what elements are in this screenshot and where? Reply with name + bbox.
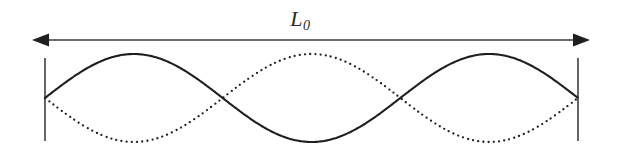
length-symbol: L: [290, 6, 302, 31]
arrow-head-left-icon: [32, 34, 49, 47]
end-bars-group: [45, 58, 578, 141]
solid-wave-curve: [45, 54, 578, 142]
length-subscript: 0: [302, 18, 310, 33]
wave-curves-group: [44, 53, 578, 143]
dimension-arrow-group: [32, 34, 590, 47]
arrow-head-right-icon: [573, 34, 590, 47]
standing-wave-figure: L0: [0, 0, 617, 150]
dotted-wave-curve: [44, 53, 577, 143]
length-dimension-label: L0: [290, 8, 310, 33]
